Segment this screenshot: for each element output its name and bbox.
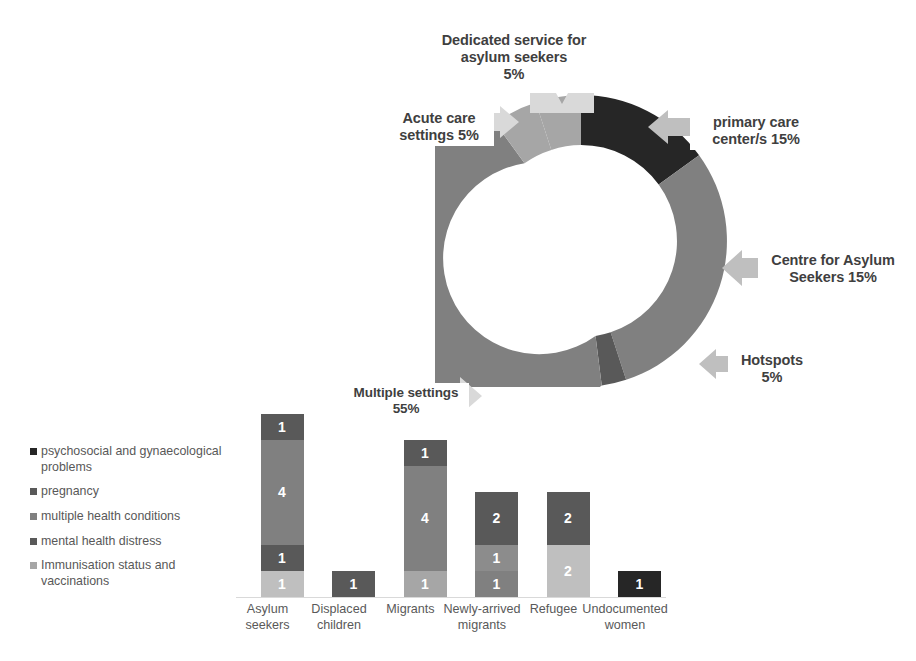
callout-dedicated-line2: asylum seekers bbox=[436, 49, 592, 66]
callout-acute-line1: Acute care bbox=[388, 110, 490, 127]
callout-primary-line1: primary care bbox=[694, 114, 818, 131]
bar-segment-label: 1 bbox=[278, 576, 286, 592]
chart-canvas: Dedicated service for asylum seekers 5% … bbox=[0, 0, 916, 661]
bar-group[interactable]: 1 bbox=[318, 571, 390, 597]
legend-item[interactable]: pregnancy bbox=[30, 484, 235, 500]
category-label-line2: migrants bbox=[436, 618, 528, 634]
bar-segment-label: 1 bbox=[278, 550, 286, 566]
bar-segment-label: 2 bbox=[564, 510, 572, 526]
callout-acute-care: Acute care settings 5% bbox=[384, 108, 494, 146]
legend-item-label: pregnancy bbox=[41, 484, 99, 500]
callout-dedicated-service: Dedicated service for asylum seekers 5% bbox=[432, 30, 596, 85]
callout-acute-line2: settings 5% bbox=[388, 127, 490, 144]
callout-multiple-line1: Multiple settings bbox=[347, 385, 465, 401]
category-label-line2: women bbox=[579, 618, 671, 634]
bar-segment[interactable]: 1 bbox=[261, 545, 304, 571]
category-label-line1: Undocumented bbox=[579, 602, 671, 618]
bar-segment[interactable]: 1 bbox=[475, 545, 518, 571]
bar-segment[interactable]: 2 bbox=[475, 492, 518, 544]
bar-segment[interactable]: 1 bbox=[261, 571, 304, 597]
stacked-bar-chart: 14111141211221 AsylumseekersDisplacedchi… bbox=[236, 405, 666, 661]
callout-centre-line1: Centre for Asylum bbox=[762, 252, 904, 269]
legend-item[interactable]: psychosocial and gynaecological problems bbox=[30, 444, 235, 475]
category-label-line2: children bbox=[293, 618, 385, 634]
bar-segment[interactable]: 1 bbox=[404, 440, 447, 466]
bar-segment-label: 1 bbox=[421, 445, 429, 461]
bar-plot-area: 14111141211221 bbox=[236, 405, 666, 597]
bar-segment-label: 1 bbox=[493, 550, 501, 566]
bar-segment[interactable]: 1 bbox=[618, 571, 661, 597]
legend-item-label: multiple health conditions bbox=[41, 509, 180, 525]
callout-primary-care: primary care center/s 15% bbox=[690, 112, 822, 150]
bar-group[interactable]: 1 bbox=[604, 571, 676, 597]
bar-segment-label: 1 bbox=[278, 419, 286, 435]
bar-segment[interactable]: 2 bbox=[547, 492, 590, 544]
category-label: Undocumentedwomen bbox=[579, 602, 671, 633]
callout-primary-line2: center/s 15% bbox=[694, 131, 818, 148]
callout-dedicated-line1: Dedicated service for bbox=[436, 32, 592, 49]
bar-segment[interactable]: 4 bbox=[404, 466, 447, 571]
bar-group[interactable]: 22 bbox=[532, 492, 604, 597]
bar-segment-label: 1 bbox=[636, 576, 644, 592]
legend-item-label: psychosocial and gynaecological problems bbox=[41, 444, 235, 475]
leader-hotspots-icon bbox=[699, 349, 731, 379]
leader-primary-icon bbox=[648, 110, 693, 144]
bar-chart-legend: psychosocial and gynaecological problems… bbox=[30, 444, 235, 598]
bar-segment[interactable]: 1 bbox=[404, 571, 447, 597]
callout-centre-asylum-seekers: Centre for Asylum Seekers 15% bbox=[758, 250, 908, 288]
callout-dedicated-value: 5% bbox=[436, 66, 592, 83]
legend-item[interactable]: Immunisation status and vaccinations bbox=[30, 558, 235, 589]
bar-segment-label: 2 bbox=[493, 510, 501, 526]
bar-group[interactable]: 141 bbox=[389, 440, 461, 597]
bar-segment-label: 4 bbox=[278, 484, 286, 500]
legend-item[interactable]: mental health distress bbox=[30, 534, 235, 550]
bar-segment[interactable]: 4 bbox=[261, 440, 304, 545]
legend-swatch-icon bbox=[30, 538, 37, 545]
legend-item-label: mental health distress bbox=[41, 534, 162, 550]
bar-group[interactable]: 211 bbox=[461, 492, 533, 597]
legend-swatch-icon bbox=[30, 513, 37, 520]
callout-hotspots-value: 5% bbox=[732, 369, 812, 386]
leader-dedicated-icon bbox=[530, 93, 594, 113]
bar-segment[interactable]: 1 bbox=[475, 571, 518, 597]
bar-segment-label: 1 bbox=[421, 576, 429, 592]
bar-group[interactable]: 1411 bbox=[246, 414, 318, 597]
bar-segment[interactable]: 2 bbox=[547, 545, 590, 597]
callout-hotspots: Hotspots 5% bbox=[728, 350, 816, 388]
category-axis-line bbox=[236, 597, 666, 598]
legend-item-label: Immunisation status and vaccinations bbox=[41, 558, 235, 589]
bar-segment-label: 2 bbox=[564, 563, 572, 579]
bar-segment-label: 1 bbox=[493, 576, 501, 592]
leader-centre-icon bbox=[722, 250, 760, 286]
callout-hotspots-line1: Hotspots bbox=[732, 352, 812, 369]
bar-segment-label: 4 bbox=[421, 510, 429, 526]
legend-swatch-icon bbox=[30, 562, 37, 569]
callout-centre-line2: Seekers 15% bbox=[762, 269, 904, 286]
legend-swatch-icon bbox=[30, 488, 37, 495]
legend-item[interactable]: multiple health conditions bbox=[30, 509, 235, 525]
category-axis-labels: AsylumseekersDisplacedchildrenMigrantsNe… bbox=[236, 602, 666, 657]
bar-segment[interactable]: 1 bbox=[261, 414, 304, 440]
bar-segment[interactable]: 1 bbox=[332, 571, 375, 597]
bar-segment-label: 1 bbox=[350, 576, 358, 592]
legend-swatch-icon bbox=[30, 448, 37, 455]
